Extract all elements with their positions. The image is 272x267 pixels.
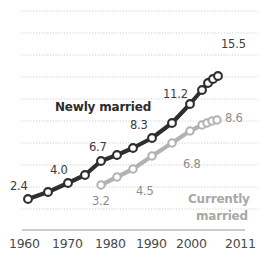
x-tick-label-1970: 1970 (52, 238, 83, 251)
x-tick-label-2011: 2011 (225, 238, 256, 251)
data-point (213, 116, 220, 123)
data-point (148, 152, 155, 159)
series-label-currently-married-line1: Currently (188, 193, 250, 205)
data-point (186, 127, 193, 134)
value-label-currently-2011: 8.6 (225, 113, 243, 125)
value-label-currently-1980: 3.2 (92, 196, 110, 208)
data-point (97, 181, 104, 188)
data-point (24, 195, 32, 203)
value-label-currently-2000: 6.8 (183, 159, 201, 171)
data-point (168, 119, 176, 127)
line-chart: 2.4 4.0 6.7 8.3 11.2 15.5 3.2 4.5 6.8 8.… (0, 0, 272, 267)
value-label-currently-1990: 4.5 (136, 186, 154, 198)
x-tick-label-1980: 1980 (95, 238, 126, 251)
data-point (198, 86, 206, 94)
data-point (168, 139, 175, 146)
data-point (97, 157, 105, 165)
x-tick-label-1960: 1960 (9, 238, 40, 251)
data-point (81, 171, 89, 179)
x-tick-label-1990: 1990 (136, 238, 167, 251)
value-label-newly-1960: 2.4 (10, 181, 28, 193)
value-label-newly-2000: 11.2 (163, 89, 188, 101)
data-point (113, 151, 121, 159)
series-label-currently-married-line2: married (196, 210, 248, 222)
value-label-newly-2011: 15.5 (221, 39, 246, 51)
series-markers-newly-married (24, 72, 222, 203)
data-point (186, 100, 194, 108)
data-point (129, 144, 137, 152)
value-label-newly-1980: 6.7 (89, 142, 107, 154)
value-label-newly-1990: 8.3 (130, 120, 148, 132)
data-point (214, 72, 222, 80)
x-tick-label-2000: 2000 (176, 238, 207, 251)
data-point (44, 188, 52, 196)
data-point (148, 134, 156, 142)
series-label-newly-married: Newly married (55, 101, 151, 113)
value-label-newly-1970: 4.0 (50, 165, 68, 177)
data-point (113, 173, 120, 180)
series-line-newly-married (28, 76, 218, 199)
data-point (64, 179, 72, 187)
data-point (129, 165, 136, 172)
